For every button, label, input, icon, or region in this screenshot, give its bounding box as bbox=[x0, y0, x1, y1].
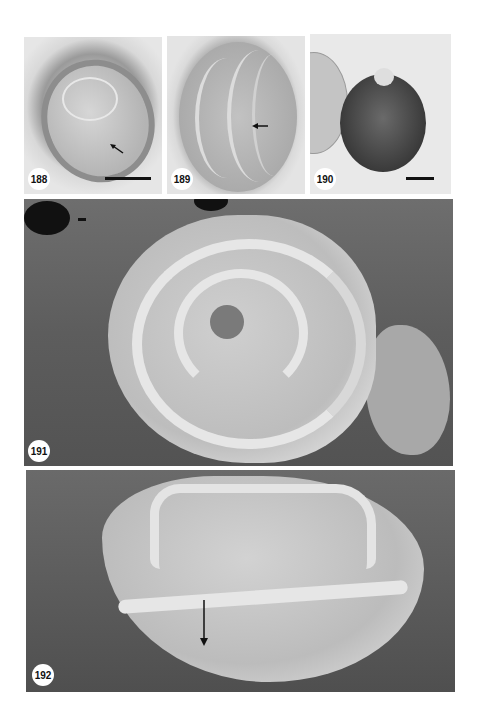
spiral-center bbox=[210, 305, 244, 339]
upper-ridge-192 bbox=[150, 484, 376, 569]
panel-label: 191 bbox=[28, 440, 50, 462]
panel-188: 188 bbox=[24, 37, 162, 194]
scale-bar bbox=[105, 177, 151, 180]
ridge-3-189 bbox=[252, 54, 295, 176]
debris-particle bbox=[366, 325, 450, 455]
scale-bar bbox=[78, 218, 86, 221]
dark-hole-2 bbox=[194, 199, 228, 211]
panel-190: 190 bbox=[310, 34, 451, 194]
panel-189: 189 bbox=[167, 36, 305, 194]
arrow-icon bbox=[252, 123, 268, 129]
arrow-icon bbox=[110, 144, 124, 154]
inner-spiral-ridge bbox=[174, 269, 308, 397]
panel-192: 192 bbox=[26, 470, 455, 692]
inner-ridge-188 bbox=[62, 77, 118, 121]
panel-label: 188 bbox=[28, 168, 50, 190]
dark-hole-1 bbox=[24, 201, 70, 235]
panel-191: 191 bbox=[24, 199, 453, 466]
arrow-icon bbox=[200, 600, 208, 646]
scale-bar bbox=[406, 177, 434, 180]
pollen-grain-190 bbox=[340, 74, 426, 172]
panel-label: 190 bbox=[314, 168, 336, 190]
panel-label: 192 bbox=[32, 664, 54, 686]
panel-label: 189 bbox=[171, 168, 193, 190]
pore-190 bbox=[374, 68, 394, 86]
